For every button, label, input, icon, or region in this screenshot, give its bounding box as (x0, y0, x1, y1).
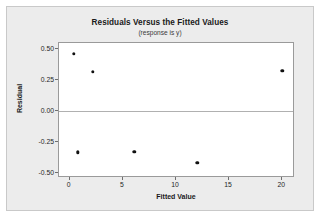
x-axis-tick-label: 5 (120, 181, 124, 188)
x-axis-tick-mark (228, 177, 229, 180)
data-point (195, 161, 198, 164)
x-axis-tick-labels: 05101520 (58, 181, 294, 193)
x-axis-tick-label: 15 (224, 181, 232, 188)
data-point (133, 150, 136, 153)
x-axis-title: Fitted Value (58, 193, 294, 200)
data-point (281, 69, 284, 72)
x-axis-tick-mark (69, 177, 70, 180)
y-axis-tick-label: 0.00 (41, 106, 54, 113)
x-axis-tick-label: 0 (67, 181, 71, 188)
data-point (72, 52, 75, 55)
data-point (76, 151, 79, 154)
x-axis-tick-mark (281, 177, 282, 180)
plot-area (58, 42, 294, 177)
y-axis-tick-label: -0.25 (39, 137, 55, 144)
chart-panel: Residuals Versus the Fitted Values (resp… (6, 6, 314, 211)
x-axis-tick-label: 20 (277, 181, 285, 188)
x-axis-tick-marks (58, 177, 294, 180)
chart-subtitle: (response is y) (7, 29, 313, 36)
x-axis-tick-label: 10 (171, 181, 179, 188)
zero-reference-line (59, 111, 293, 112)
y-axis-tick-label: 0.50 (41, 44, 54, 51)
y-axis-tick-labels: 0.500.250.00-0.25-0.50 (21, 42, 54, 177)
plot-inner (59, 43, 293, 176)
x-axis-tick-mark (122, 177, 123, 180)
chart-title: Residuals Versus the Fitted Values (7, 18, 313, 27)
y-axis-tick-label: 0.25 (41, 75, 54, 82)
x-axis-tick-mark (175, 177, 176, 180)
y-axis-tick-label: -0.50 (39, 169, 55, 176)
data-point (91, 70, 94, 73)
